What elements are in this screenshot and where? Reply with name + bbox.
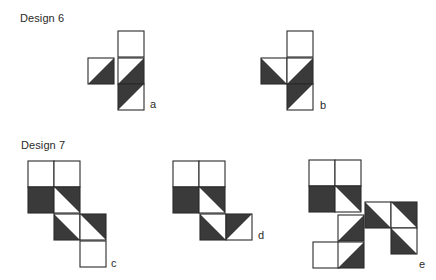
figure-a-label: a: [150, 99, 156, 110]
tile-b-3-ul: [287, 84, 313, 110]
tile-figures-canvas: [0, 0, 436, 280]
design-6-heading: Design 6: [20, 13, 64, 24]
tile-e-3-ur: [335, 186, 361, 212]
tile-b-1-ll: [261, 58, 287, 84]
tile-c-4-ll: [54, 214, 80, 240]
figure-d-label: d: [258, 230, 264, 241]
tile-e-2-full: [309, 186, 335, 212]
figure-e-label: e: [419, 259, 425, 270]
tile-c-5-ur: [80, 214, 106, 240]
tile-a-1-lr: [88, 58, 114, 84]
tile-c-1-none: [54, 161, 80, 187]
tile-d-5-ul: [226, 214, 252, 240]
tile-e-5-ur: [391, 202, 417, 228]
figure-b-label: b: [320, 100, 326, 111]
design-7-heading: Design 7: [21, 140, 65, 151]
tile-c-6-none: [80, 241, 106, 267]
figure-d: [173, 161, 252, 240]
tile-d-3-ur: [199, 187, 225, 213]
tile-e-1-none: [335, 160, 361, 186]
tile-e-7-ll: [391, 228, 417, 254]
tile-d-0-none: [173, 161, 199, 187]
tile-b-0-none: [287, 31, 313, 57]
tile-e-6-lr: [338, 215, 364, 241]
tile-c-3-ur: [54, 187, 80, 213]
tile-d-1-none: [199, 161, 225, 187]
figure-c: [28, 161, 106, 267]
figure-a: [88, 31, 144, 110]
tile-b-2-lr: [287, 58, 313, 84]
figure-b: [261, 31, 313, 110]
tile-e-0-none: [309, 160, 335, 186]
tile-d-2-full: [173, 187, 199, 213]
tile-d-4-ll: [200, 214, 226, 240]
tile-a-0-none: [118, 31, 144, 57]
tile-e-9-lr: [338, 242, 364, 268]
tile-a-2-lr: [118, 58, 144, 84]
tile-e-8-none: [313, 242, 339, 268]
tile-c-0-none: [28, 161, 54, 187]
tile-e-4-ll: [365, 202, 391, 228]
tile-a-3-ul: [118, 84, 144, 110]
figure-c-label: c: [111, 258, 117, 269]
tile-c-2-full: [28, 187, 54, 213]
figure-e: [309, 160, 417, 268]
